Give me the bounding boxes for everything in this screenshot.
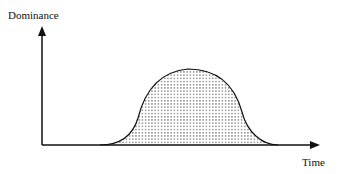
dominance-area <box>100 69 278 145</box>
x-axis-arrow-icon <box>310 141 320 149</box>
dominance-diagram <box>0 0 343 174</box>
y-axis-arrow-icon <box>38 26 46 36</box>
